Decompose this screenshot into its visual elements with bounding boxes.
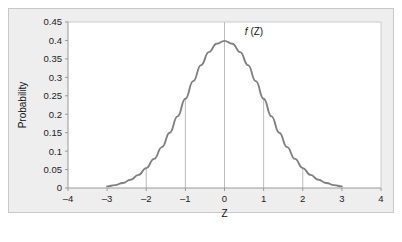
y-tick-label: 0.15 [44,127,63,138]
y-tick-label: 0.2 [49,109,62,120]
y-tick-label: 0.45 [44,16,63,27]
x-tick-label: 2 [300,193,305,204]
x-tick-label: 3 [339,193,344,204]
y-tick-label: 0.05 [44,164,63,175]
curve-annotation-fz: f (Z) [245,26,263,37]
x-tick-label: 1 [261,193,266,204]
x-axis-title: Z [221,208,227,219]
y-tick-label: 0.25 [44,90,63,101]
y-tick-label: 0.1 [49,146,62,157]
x-tick-label: 4 [378,193,383,204]
y-tick-label: 0.4 [49,35,62,46]
x-tick-label: –4 [63,193,74,204]
x-tick-label: –2 [141,193,152,204]
annotation-z: (Z) [248,26,264,37]
normal-distribution-chart: 00.050.10.150.20.250.30.350.40.45–4–3–2–… [0,0,402,242]
y-tick-label: 0 [57,182,62,193]
y-tick-label: 0.3 [49,72,62,83]
x-tick-label: 0 [222,193,227,204]
y-axis-title: Probability [17,82,28,129]
y-tick-label: 0.35 [44,53,63,64]
x-tick-label: –1 [180,193,191,204]
x-tick-label: –3 [102,193,113,204]
